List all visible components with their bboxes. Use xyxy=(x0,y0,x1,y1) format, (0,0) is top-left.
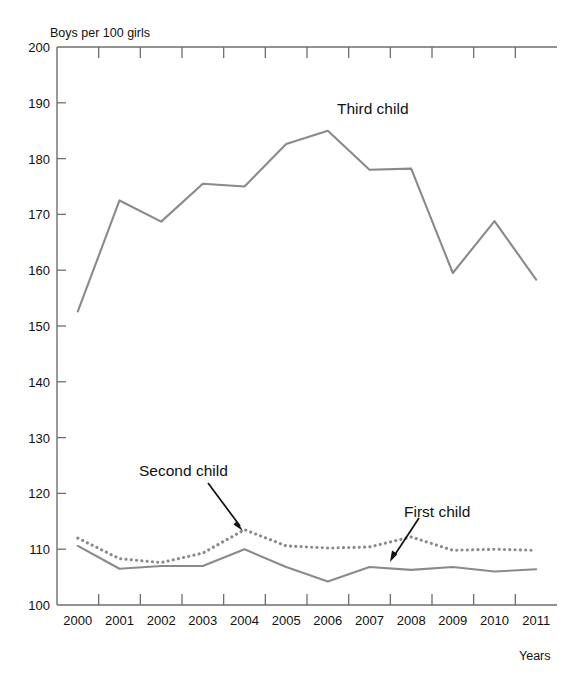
plot-surface xyxy=(0,0,583,678)
plot-frame xyxy=(57,47,557,605)
x-axis-ticks-bottom xyxy=(99,594,516,605)
series-line-third-child xyxy=(78,131,536,312)
x-axis-ticks-top xyxy=(99,47,516,58)
y-axis-ticks xyxy=(57,103,66,549)
annotation-arrow-second-child xyxy=(208,483,243,531)
line-chart: Boys per 100 girls Years 100 110 120 130… xyxy=(0,0,583,678)
series-line-second-child xyxy=(78,530,536,563)
